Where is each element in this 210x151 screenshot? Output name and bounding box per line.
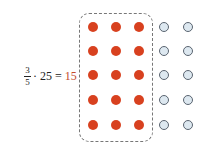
fraction-numerator: 3 — [25, 66, 30, 75]
filled-dot — [111, 70, 121, 80]
filled-dot — [134, 120, 144, 130]
filled-dot — [111, 22, 121, 32]
filled-dot — [88, 46, 98, 56]
fraction-denominator: 5 — [25, 78, 30, 87]
fraction: 3 5 — [24, 66, 31, 87]
equation-operator: · 25 = — [33, 69, 62, 84]
empty-dot — [159, 22, 169, 32]
filled-dot — [88, 95, 98, 105]
filled-dot — [111, 46, 121, 56]
empty-dot — [159, 95, 169, 105]
filled-dot — [111, 95, 121, 105]
filled-dot — [134, 22, 144, 32]
filled-dot — [88, 22, 98, 32]
empty-dot — [183, 46, 193, 56]
empty-dot — [183, 22, 193, 32]
empty-dot — [159, 120, 169, 130]
empty-dot — [183, 95, 193, 105]
empty-dot — [183, 70, 193, 80]
empty-dot — [159, 46, 169, 56]
filled-dot — [88, 70, 98, 80]
empty-dot — [183, 120, 193, 130]
empty-dot — [159, 70, 169, 80]
filled-dot — [88, 120, 98, 130]
equation-result: 15 — [65, 69, 77, 84]
filled-dot — [111, 120, 121, 130]
equation: 3 5 · 25 = 15 — [24, 64, 77, 88]
filled-dot — [134, 95, 144, 105]
filled-dot — [134, 46, 144, 56]
filled-dot — [134, 70, 144, 80]
